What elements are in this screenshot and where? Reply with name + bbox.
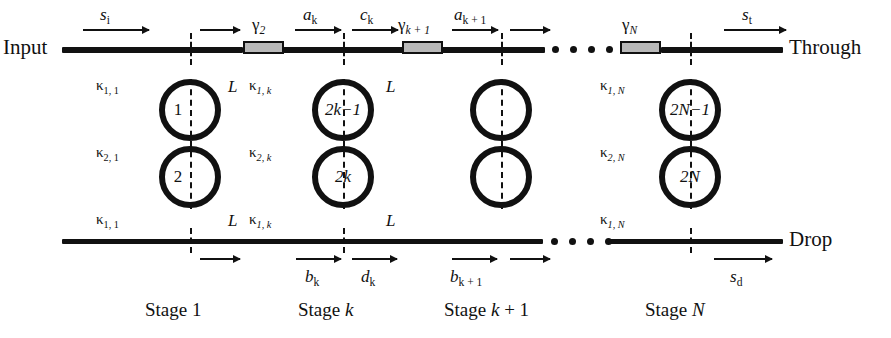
arrow-d-k	[352, 258, 397, 260]
ring-label-stageN-top: 2N−1	[670, 100, 710, 120]
centre-line-stage1-rings	[190, 79, 192, 209]
centre-line-stagek	[343, 33, 345, 65]
ring-label-stage1-bottom: 2	[174, 167, 183, 187]
arrow-b-k-plus-1	[452, 258, 497, 260]
length-label-stage1-top: L	[228, 78, 237, 95]
coupler-label-gamma-2: γ2	[252, 16, 265, 37]
top-bus-segment-3	[442, 47, 545, 53]
centre-line-stagek1-rings	[501, 79, 503, 209]
kappa-label-stageN-mid: κ2, N	[600, 145, 625, 163]
ring-resonator-diagram: 1 2 2k−1 2k 2N−1 2N Input Through Drop s…	[0, 0, 891, 338]
signal-label-s-drop: sd	[730, 268, 742, 289]
signal-label-s-in: si	[100, 6, 110, 27]
bottom-bus-ellipsis	[551, 238, 612, 245]
arrow-a-k	[295, 29, 341, 31]
kappa-label-stage1-top: κ1, 1	[96, 78, 119, 96]
arrow-stage1-drop	[200, 258, 240, 260]
arrow-s-through	[724, 29, 786, 31]
stage-label-1: Stage 1	[145, 300, 201, 319]
centre-line-stagek-rings	[343, 79, 345, 209]
kappa-label-stage1-bot: κ1, 1	[96, 212, 119, 230]
stage-label-N: Stage N	[645, 300, 705, 319]
length-label-stage1-bot: L	[228, 212, 237, 229]
coupler-box-gamma-k-plus-1	[402, 41, 443, 54]
signal-label-d-k: dk	[361, 268, 375, 289]
ring-label-stagek-bottom: 2k	[335, 167, 351, 187]
arrow-stage1-out	[200, 29, 240, 31]
bottom-bus-segment-2	[608, 239, 783, 244]
centre-line-stagek-drop	[343, 228, 345, 253]
centre-line-stage1-drop	[190, 228, 192, 253]
ring-label-stagek-top: 2k−1	[325, 100, 361, 120]
centre-line-stageN	[690, 33, 692, 65]
coupler-label-gamma-N: γN	[622, 16, 637, 37]
centre-line-stageN-rings	[690, 79, 692, 209]
arrow-c-k	[352, 29, 398, 31]
ring-label-stageN-bottom: 2N	[680, 167, 700, 187]
centre-line-stagek1	[501, 33, 503, 65]
kappa-label-stagek-top: κ1, k	[249, 78, 271, 96]
top-bus-ellipsis	[552, 46, 613, 53]
kappa-label-stageN-top: κ1, N	[600, 78, 625, 96]
coupler-label-gamma-k-plus-1: γk + 1	[398, 16, 430, 37]
centre-line-stage1	[190, 33, 192, 65]
arrow-s-drop	[714, 258, 772, 260]
kappa-label-stage1-mid: κ2, 1	[96, 145, 119, 163]
signal-label-a-k-plus-1: ak + 1	[454, 6, 486, 27]
signal-label-c-k: ck	[360, 6, 373, 27]
signal-label-b-k-plus-1: bk + 1	[450, 268, 482, 289]
kappa-label-stagek-mid: κ2, k	[249, 145, 271, 163]
arrow-a-k-plus-1	[452, 29, 498, 31]
length-label-stagek-top: L	[386, 78, 395, 95]
stage-label-k: Stage k	[298, 300, 353, 319]
port-label-input: Input	[3, 37, 47, 58]
top-bus-segment-1	[62, 47, 243, 53]
arrow-b-k	[296, 258, 341, 260]
signal-label-a-k: ak	[303, 6, 317, 27]
top-bus-segment-4	[661, 47, 783, 53]
centre-line-stageN-drop	[690, 228, 692, 253]
coupler-box-gamma-N	[620, 41, 661, 54]
coupler-box-gamma-2	[243, 41, 284, 54]
bottom-bus-segment-1	[62, 239, 543, 244]
ring-label-stage1-top: 1	[174, 100, 183, 120]
kappa-label-stagek-bot: κ1, k	[249, 212, 271, 230]
arrow-stagek1-out	[510, 29, 550, 31]
port-label-drop: Drop	[789, 229, 832, 250]
length-label-stagek-bot: L	[386, 212, 395, 229]
kappa-label-stageN-bot: κ1, N	[600, 212, 625, 230]
stage-label-k-plus-1: Stage k + 1	[444, 300, 529, 319]
arrow-s-in	[83, 29, 149, 31]
arrow-stagek1-drop	[510, 258, 550, 260]
port-label-through: Through	[789, 37, 861, 58]
signal-label-b-k: bk	[305, 268, 319, 289]
signal-label-s-through: st	[742, 6, 752, 27]
